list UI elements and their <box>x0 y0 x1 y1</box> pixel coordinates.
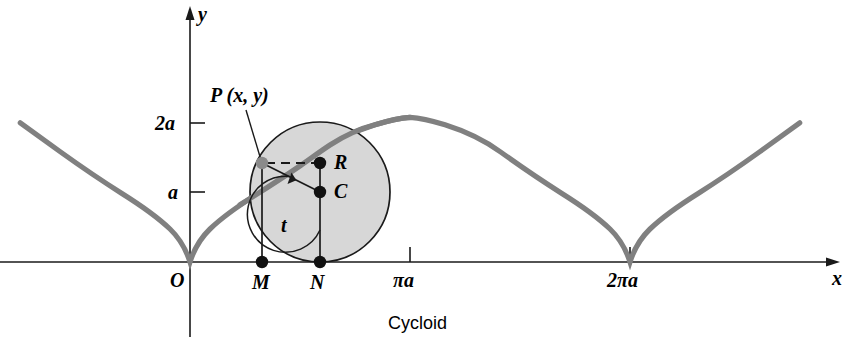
cycloid-curve <box>20 117 799 262</box>
point-label-r: R <box>334 152 347 172</box>
x-axis-label: x <box>832 268 842 288</box>
point-label-m: M <box>252 272 270 292</box>
cycloid-figure: P (x, y) R C M N t O y x 2a a πa 2πa Cyc… <box>0 0 849 337</box>
leader-line-p <box>246 110 261 160</box>
point-label-n: N <box>310 272 324 292</box>
x-axis <box>0 258 840 267</box>
point-p-dot <box>256 157 268 169</box>
x-tick-label-2pi-a: 2πa <box>607 270 638 290</box>
y-axis <box>186 6 195 337</box>
y-tick-label-2a: 2a <box>155 113 175 133</box>
point-label-c: C <box>334 181 347 201</box>
x-tick-marks <box>410 247 630 262</box>
x-tick-label-pi-a: πa <box>393 270 414 290</box>
y-tick-marks <box>190 123 205 192</box>
origin-label: O <box>170 270 184 290</box>
point-c-dot <box>314 186 326 198</box>
point-m-dot <box>256 256 268 268</box>
cycloid-diagram-svg <box>0 0 849 337</box>
angle-label-t: t <box>281 215 287 235</box>
y-tick-label-a: a <box>168 182 178 202</box>
figure-caption: Cycloid <box>388 314 447 332</box>
point-label-p: P (x, y) <box>210 85 269 105</box>
point-r-dot <box>314 157 326 169</box>
point-n-dot <box>314 256 326 268</box>
y-axis-label: y <box>198 4 207 24</box>
